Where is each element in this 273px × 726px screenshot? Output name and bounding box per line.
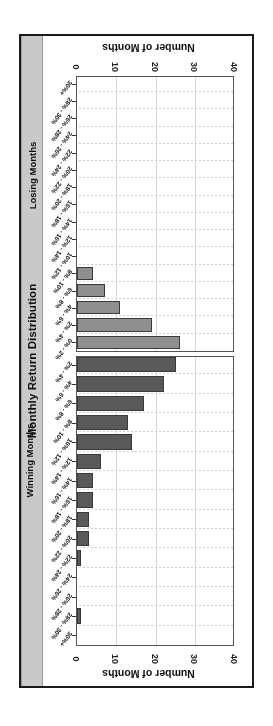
winning-months-panel (76, 356, 234, 646)
value-axis-label-bottom: Number of Months (45, 42, 252, 54)
chart-title-bar: Monthly Return Distribution (21, 36, 43, 686)
gridline-horizontal (77, 333, 233, 334)
gridline-horizontal (77, 509, 233, 510)
axis-tick-10: 10 (111, 650, 121, 668)
gridline-horizontal (77, 567, 233, 568)
gridline-horizontal (77, 625, 233, 626)
page-title: Monthly Return Distribution (26, 284, 38, 439)
gridline-horizontal (77, 143, 233, 144)
gridline-vertical (196, 357, 197, 645)
gridline-horizontal (77, 298, 233, 299)
gridline-horizontal (77, 126, 233, 127)
rotated-chart-content: Monthly Return Distribution Number of Mo… (21, 36, 252, 686)
chart-frame: Monthly Return Distribution Number of Mo… (19, 34, 254, 688)
gridline-horizontal (77, 470, 233, 471)
bar-winning-months-7 (77, 492, 93, 507)
bar-losing-months-3 (77, 284, 105, 297)
bar-winning-months-11 (77, 415, 128, 430)
gridline-horizontal (77, 264, 233, 265)
axis-tick-20: 20 (150, 58, 160, 76)
category-label: 2% - 4% (54, 360, 74, 384)
gridline-vertical (196, 77, 197, 351)
axis-tick-30: 30 (190, 58, 200, 76)
gridline-vertical (156, 357, 157, 645)
category-label: 6% - 8% (54, 399, 74, 423)
gridline-horizontal (77, 281, 233, 282)
bar-winning-months-6 (77, 512, 89, 527)
gridline-horizontal (77, 431, 233, 432)
gridline-horizontal (77, 315, 233, 316)
bar-losing-months-2 (77, 301, 120, 314)
plot-canvas: Number of Months Number of Months 010203… (45, 36, 252, 686)
gridline-horizontal (77, 195, 233, 196)
bar-losing-months-0 (77, 336, 180, 349)
bar-winning-months-14 (77, 357, 176, 372)
gridline-horizontal (77, 528, 233, 529)
gridline-horizontal (77, 412, 233, 413)
bar-winning-months-5 (77, 531, 89, 546)
gridline-horizontal (77, 177, 233, 178)
bar-winning-months-4 (77, 550, 81, 565)
gridline-horizontal (77, 586, 233, 587)
gridline-horizontal (77, 373, 233, 374)
bar-winning-months-1 (77, 608, 81, 623)
gridline-horizontal (77, 605, 233, 606)
losing-months-panel (76, 76, 234, 352)
value-axis-ticks-bottom: 010203040 (45, 58, 252, 72)
gridline-horizontal (77, 108, 233, 109)
losing-months-caption: Losing Months (27, 142, 38, 210)
gridline-horizontal (77, 246, 233, 247)
bar-losing-months-1 (77, 319, 152, 332)
gridline-horizontal (77, 229, 233, 230)
gridline-horizontal (77, 212, 233, 213)
bar-winning-months-12 (77, 396, 144, 411)
axis-tick-30: 30 (190, 650, 200, 668)
category-axis-labels: 30%+28% - 30%26% - 28%24% - 26%22% - 24%… (45, 36, 76, 686)
gridline-horizontal (77, 489, 233, 490)
gridline-horizontal (77, 393, 233, 394)
axis-tick-10: 10 (111, 58, 121, 76)
gridline-vertical (156, 77, 157, 351)
value-axis-label-top: Number of Months (45, 668, 252, 680)
gridline-horizontal (77, 451, 233, 452)
axis-tick-40: 40 (229, 650, 239, 668)
bar-winning-months-13 (77, 376, 164, 391)
bar-winning-months-8 (77, 473, 93, 488)
bar-winning-months-9 (77, 454, 101, 469)
value-axis-ticks-top: 010203040 (45, 650, 252, 664)
gridline-horizontal (77, 160, 233, 161)
axis-tick-40: 40 (229, 58, 239, 76)
gridline-horizontal (77, 91, 233, 92)
winning-months-caption: Winning Months (24, 424, 35, 498)
bar-losing-months-4 (77, 267, 93, 280)
category-label: 30%+ (59, 79, 74, 97)
gridline-horizontal (77, 547, 233, 548)
axis-tick-20: 20 (150, 650, 160, 668)
bar-winning-months-10 (77, 434, 132, 449)
